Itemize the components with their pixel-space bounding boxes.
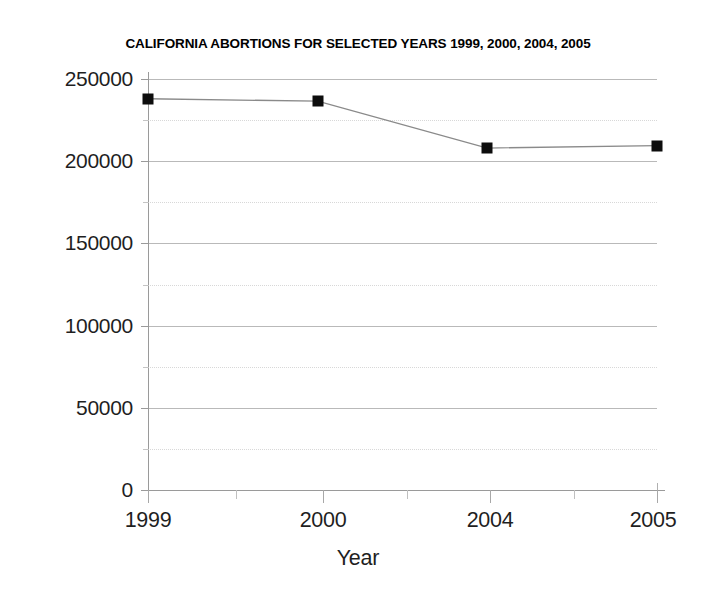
series-line-layer: [0, 0, 716, 595]
chart-container: CALIFORNIA ABORTIONS FOR SELECTED YEARS …: [0, 0, 716, 595]
data-point-2005: [652, 140, 663, 151]
data-point-2004: [482, 143, 493, 154]
data-point-1999: [143, 93, 154, 104]
data-point-2000: [312, 96, 323, 107]
series-line: [148, 99, 657, 148]
